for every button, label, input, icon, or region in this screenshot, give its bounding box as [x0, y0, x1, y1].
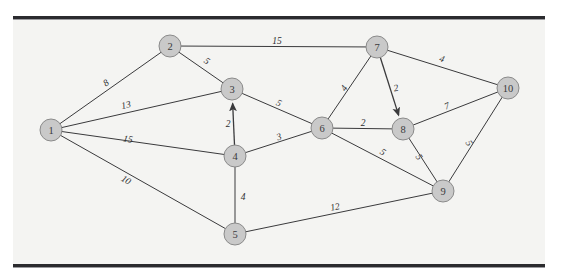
graph-node-3[interactable]: 3: [221, 78, 243, 100]
graph-node-4[interactable]: 4: [224, 145, 246, 167]
node-label-9: 9: [440, 186, 445, 197]
node-label-4: 4: [232, 151, 238, 162]
node-label-7: 7: [374, 42, 379, 53]
edge-weight-8-10: 7: [443, 100, 452, 111]
graph-edge-2-7: [180, 46, 367, 47]
edge-weight-7-8: 2: [393, 83, 400, 94]
graph-edge-6-7: [328, 55, 372, 119]
graph-node-8[interactable]: 8: [392, 118, 414, 140]
graph-edge-1-3: [61, 91, 222, 128]
graph-edge-2-3: [178, 52, 224, 84]
node-label-2: 2: [167, 41, 172, 52]
graph-node-6[interactable]: 6: [311, 117, 333, 139]
edge-weight-5-9: 12: [329, 201, 340, 213]
edge-weight-4-6: 3: [274, 131, 283, 142]
edge-weight-2-7: 15: [272, 36, 282, 46]
graph-edge-1-4: [61, 131, 225, 154]
graph-figure: 813151015525341242255475 12345678910: [0, 0, 561, 278]
edge-weight-1-2: 8: [101, 77, 111, 88]
node-label-10: 10: [503, 83, 514, 94]
graph-edge-6-8: [332, 128, 393, 129]
edge-weight-9-10: 5: [464, 138, 475, 148]
edge-weight-2-3: 5: [202, 56, 212, 67]
graph-edge-1-2: [59, 52, 162, 124]
edge-weight-layer: 813151015525341242255475: [101, 36, 474, 213]
graph-node-1[interactable]: 1: [40, 119, 62, 141]
edge-weight-6-7: 4: [339, 83, 350, 93]
node-label-1: 1: [48, 125, 53, 136]
graph-edge-1-5: [60, 135, 227, 229]
edge-weight-6-8: 2: [361, 118, 366, 128]
graph-canvas: 813151015525341242255475 12345678910: [0, 0, 561, 278]
graph-edge-3-6: [241, 93, 313, 124]
node-label-6: 6: [319, 123, 324, 134]
graph-node-9[interactable]: 9: [432, 180, 454, 202]
graph-node-7[interactable]: 7: [366, 36, 388, 58]
graph-node-2[interactable]: 2: [159, 35, 181, 57]
edge-weight-4-5: 4: [241, 192, 246, 202]
graph-node-10[interactable]: 10: [497, 77, 519, 99]
edge-weight-1-3: 13: [120, 99, 132, 111]
edge-weight-1-4: 15: [122, 133, 133, 145]
node-label-8: 8: [400, 124, 405, 135]
edge-weight-7-10: 4: [438, 54, 446, 65]
node-label-5: 5: [232, 229, 237, 240]
edge-weight-4-3: 2: [226, 119, 231, 129]
edge-weight-3-6: 5: [275, 97, 284, 108]
graph-edge-9-10: [448, 96, 502, 182]
graph-edge-8-10: [412, 92, 498, 126]
graph-node-5[interactable]: 5: [224, 223, 246, 245]
graph-edge-4-3: [233, 103, 235, 146]
node-label-3: 3: [229, 84, 234, 95]
graph-edge-5-9: [245, 193, 433, 232]
edge-weight-6-9: 5: [378, 147, 388, 158]
